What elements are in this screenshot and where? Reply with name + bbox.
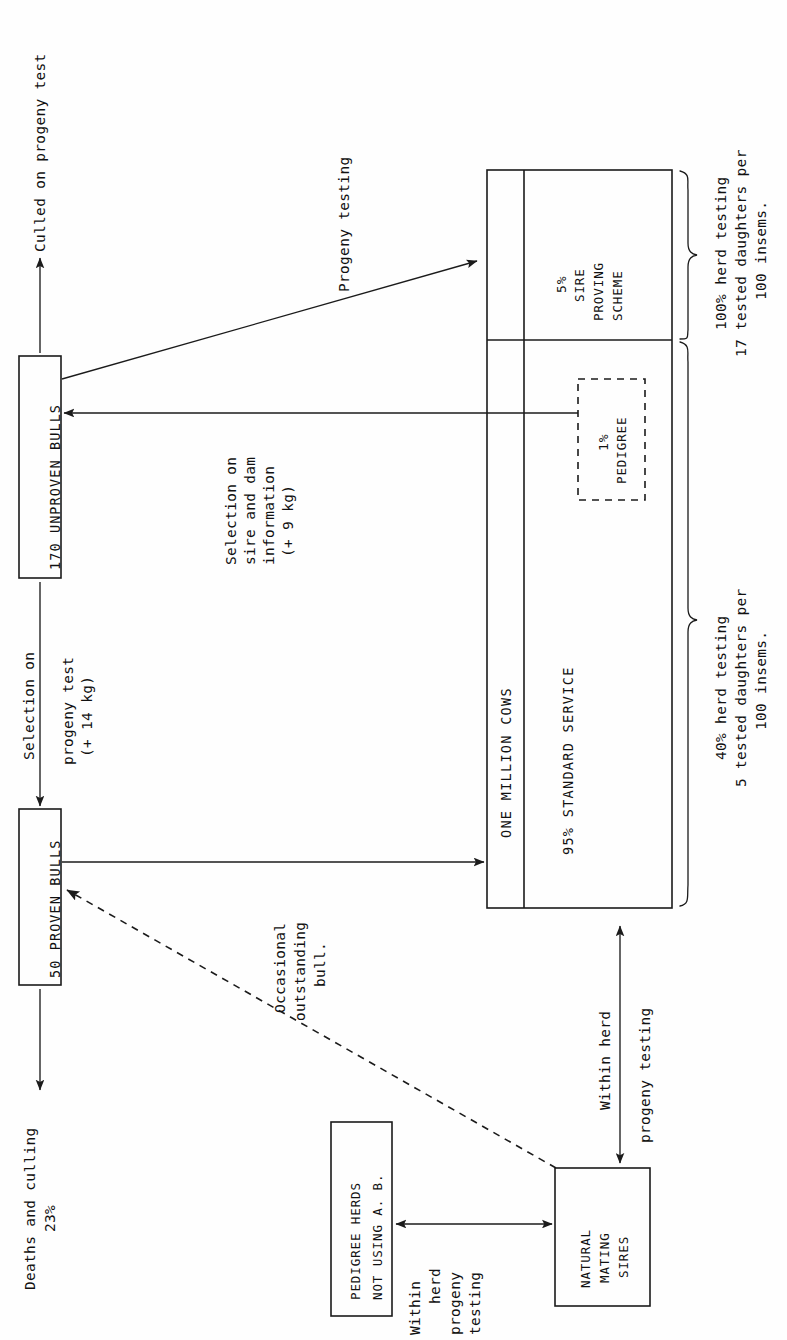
sire-proving-line1: SIRE [572,268,589,302]
pedigree-label: PEDIGREE [614,417,631,484]
selection-progeny-line1: Selection on [20,652,39,760]
progeny-testing-arrow [62,261,477,379]
brace-upper-line1: 100% herd testing [712,176,731,330]
within-herd-horizontal-line4: testing [466,1272,485,1335]
culled-on-progeny-test-label: Culled on progeny test [31,53,50,252]
brace-lower-line1: 40% herd testing [712,616,731,760]
brace-lower-line3: 100 insems. [752,631,771,730]
sire-proving-pct: 5% [553,275,570,293]
occasional-bull-line1: Occasional [271,923,290,1013]
deaths-culling-line2: 23% [41,1205,60,1232]
occasional-bull-dashed-arrow [67,890,556,1168]
selection-sire-dam-line3: information [260,466,279,565]
brace-lower [680,342,697,906]
sire-proving-line2: PROVING [591,262,608,321]
selection-sire-dam-line1: Selection on [222,457,241,565]
selection-progeny-line3: (+ 14 kg) [78,676,97,757]
standard-service-label: 95% STANDARD SERVICE [560,666,578,855]
pedigree-pct: 1% [595,433,612,451]
unproven-bulls-label: 170 UNPROVEN BULLS [47,404,65,570]
within-herd-horizontal-line3: progeny [446,1272,465,1335]
natural-mating-line3: SIRES [616,1236,633,1278]
within-herd-vertical-line2: progeny testing [636,1008,655,1143]
progeny-testing-label: Progeny testing [335,157,354,292]
proven-bulls-label: 50 PROVEN BULLS [47,840,65,978]
natural-mating-line1: NATURAL [578,1229,595,1288]
selection-sire-dam-line2: sire and dam [241,457,260,565]
cows-title-label: ONE MILLION COWS [498,687,516,838]
diagram-lines [0,0,787,1340]
pedigree-herds-line2: NOT USING A. B. [370,1174,387,1300]
brace-upper-line2: 17 tested daughters per [732,149,751,357]
pedigree-herds-line1: PEDIGREE HERDS [348,1182,365,1300]
occasional-bull-line3: bull. [311,942,330,987]
deaths-culling-line1: Deaths and culling [21,1127,40,1290]
brace-lower-line2: 5 tested daughters per [732,588,751,787]
brace-upper [680,171,697,339]
brace-upper-line3: 100 insems. [752,201,771,300]
selection-progeny-line2: progeny test [59,657,78,765]
sire-proving-line3: SCHEME [610,270,627,321]
figure-page: 170 UNPROVEN BULLS 50 PROVEN BULLS Culle… [0,0,787,1340]
within-herd-horizontal-line1: Within [406,1281,425,1335]
occasional-bull-line2: outstanding [291,922,310,1021]
within-herd-horizontal-line2: herd [426,1268,445,1304]
natural-mating-line2: MATING [597,1232,614,1283]
within-herd-vertical-line1: Within herd [596,1011,615,1110]
selection-sire-dam-line4: (+ 9 kg) [279,485,298,557]
